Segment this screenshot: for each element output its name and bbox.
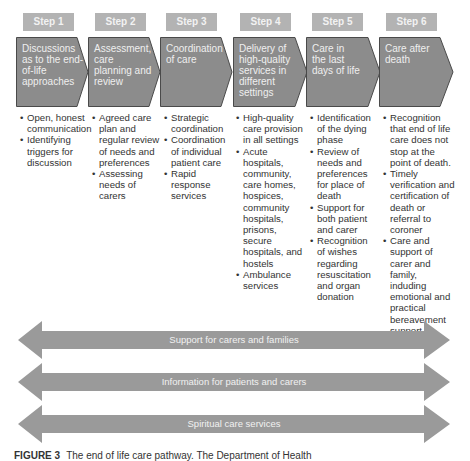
bullet-item: Ambulance services	[236, 269, 306, 291]
band-label: Support for carers and families	[18, 320, 450, 360]
band-label: Spiritual care services	[18, 404, 450, 444]
step-4-label: Step 4	[240, 13, 291, 31]
step-2-details: Agreed care plan and regular review of n…	[92, 112, 160, 202]
bullet-item: Timely verification and certification of…	[383, 168, 455, 235]
step-4-details: High-quality care provision in all setti…	[236, 112, 306, 291]
bullet-item: Strategic coordination	[164, 112, 236, 134]
step-6-details: Recognition that end of life care does n…	[383, 112, 455, 336]
step-3-details: Strategic coordination Coordination of i…	[164, 112, 236, 202]
bullet-item: Review of needs and preferences for plac…	[310, 146, 378, 202]
step-5-label: Step 5	[312, 13, 363, 31]
caption-text: The end of life care pathway. The Depart…	[66, 450, 311, 461]
step-2-title: Assessment, care planning and review	[94, 43, 152, 87]
bullet-item: Recognition that end of life care does n…	[383, 112, 455, 168]
bullet-item: Assessing needs of carers	[92, 168, 160, 202]
band-label: Information for patients and carers	[18, 362, 450, 402]
step-5-title: Care in the last days of life	[312, 43, 360, 76]
step-6-title: Care after death	[385, 43, 447, 65]
step-2-chevron: Assessment, care planning and review	[88, 37, 162, 107]
bullet-item: Open, honest communication	[20, 112, 88, 134]
step-1-details: Open, honest communication Identifying t…	[20, 112, 88, 168]
bullet-item: Recognition of wishes regarding resuscit…	[310, 235, 378, 302]
bullet-item: High-quality care provision in all setti…	[236, 112, 306, 146]
bullet-item: Agreed care plan and regular review of n…	[92, 112, 160, 168]
bullet-item: Coordination of individual patient care	[164, 134, 236, 168]
step-4-title: Delivery of high-quality services in dif…	[239, 43, 293, 98]
step-4-chevron: Delivery of high-quality services in dif…	[233, 37, 309, 107]
bullet-item: Rapid response services	[164, 168, 236, 202]
band-support-carers: Support for carers and families	[18, 320, 450, 360]
step-3-label: Step 3	[166, 13, 217, 31]
step-6-label: Step 6	[386, 13, 437, 31]
step-6-chevron: Care after death	[379, 37, 455, 107]
step-1-title: Discussions as to the end-of-life approa…	[22, 43, 84, 87]
bullet-item: Identification of the dying phase	[310, 112, 378, 146]
figure-caption: FIGURE 3The end of life care pathway. Th…	[14, 450, 311, 461]
bullet-item: Acute hospitals, community, care homes, …	[236, 146, 306, 269]
step-5-details: Identification of the dying phase Review…	[310, 112, 378, 302]
step-3-chevron: Coordination of care	[160, 37, 234, 107]
bullet-item: Support for both patient and carer	[310, 202, 378, 236]
step-5-chevron: Care in the last days of life	[306, 37, 382, 107]
step-1-chevron: Discussions as to the end-of-life approa…	[16, 37, 90, 107]
step-2-label: Step 2	[95, 13, 146, 31]
band-spiritual-care: Spiritual care services	[18, 404, 450, 444]
step-1-label: Step 1	[23, 13, 74, 31]
caption-prefix: FIGURE 3	[14, 450, 60, 461]
bullet-item: Identifying triggers for discussion	[20, 134, 88, 168]
step-3-title: Coordination of care	[166, 43, 228, 65]
band-information: Information for patients and carers	[18, 362, 450, 402]
